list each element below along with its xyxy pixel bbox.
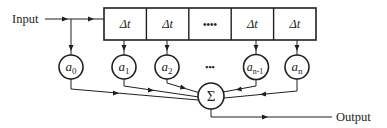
tap-arrow-icon-an-1 bbox=[254, 45, 259, 51]
delay-cell-n-1: Δt bbox=[246, 17, 258, 31]
output-line bbox=[211, 109, 332, 117]
sum-arrow-icon-a0 bbox=[113, 91, 119, 96]
input-arrow-icon-2 bbox=[88, 17, 94, 22]
tap-arrow-icon-a0 bbox=[69, 45, 74, 51]
coefficient-a2: a2 bbox=[155, 55, 179, 79]
coefficient-an-1: an-1 bbox=[244, 55, 269, 80]
svg-text:Σ: Σ bbox=[207, 88, 216, 104]
input-label: Input bbox=[12, 12, 39, 26]
delay-cell-ellipsis: •••• bbox=[203, 19, 218, 30]
tap-arrow-icon-a2 bbox=[165, 45, 170, 51]
fir-filter-diagram: Input Δt Δt •••• Δt Δt a0 a1 a2 ••• bbox=[0, 0, 387, 128]
coefficient-a0: a0 bbox=[59, 55, 83, 79]
delay-cell-2: Δt bbox=[161, 17, 173, 31]
input-arrow-icon bbox=[62, 17, 68, 22]
delay-line: Δt Δt •••• Δt Δt bbox=[104, 8, 316, 40]
coefficient-a1: a1 bbox=[112, 55, 136, 79]
sum-arrow-icon-an bbox=[260, 92, 266, 97]
coefficient-an: an bbox=[285, 55, 309, 79]
coefficient-ellipsis: ••• bbox=[205, 62, 214, 72]
output-arrow-icon bbox=[262, 115, 268, 120]
tap-arrow-icon-an bbox=[295, 45, 300, 51]
tap-arrow-icon-a1 bbox=[122, 45, 127, 51]
summer-node: Σ bbox=[198, 83, 224, 109]
output-label: Output bbox=[336, 110, 371, 124]
sum-arrow-icon-a2 bbox=[180, 85, 186, 90]
delay-cell-n: Δt bbox=[288, 17, 300, 31]
delay-cell-1: Δt bbox=[119, 17, 131, 31]
